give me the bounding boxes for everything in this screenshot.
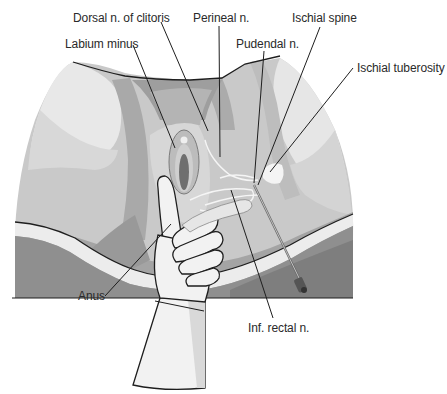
label-anus: Anus xyxy=(78,289,105,303)
label-labium-minus: Labium minus xyxy=(65,37,139,51)
pudendal-block-diagram: Dorsal n. of clitoris Labium minus Perin… xyxy=(0,0,447,394)
label-perineal-n: Perineal n. xyxy=(193,11,249,25)
label-dorsal-n-clitoris: Dorsal n. of clitoris xyxy=(73,11,170,25)
label-ischial-spine: Ischial spine xyxy=(292,11,357,25)
label-inf-rectal-n: Inf. rectal n. xyxy=(248,321,309,335)
anatomy-illustration xyxy=(0,0,447,394)
label-ischial-tuberosity: Ischial tuberosity xyxy=(357,61,445,75)
label-pudendal-n: Pudendal n. xyxy=(236,37,299,51)
